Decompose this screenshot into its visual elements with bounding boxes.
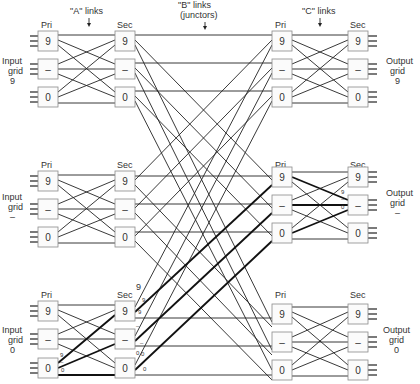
- svg-text:0: 0: [136, 350, 140, 356]
- svg-text:9: 9: [279, 36, 285, 47]
- b-links-header: "B" links (junctors): [178, 0, 218, 30]
- svg-text:–: –: [122, 64, 128, 75]
- svg-text:9: 9: [60, 352, 64, 358]
- svg-text:–: –: [45, 64, 51, 75]
- svg-text:Output: Output: [386, 188, 414, 198]
- svg-text:Pri: Pri: [275, 290, 286, 300]
- svg-text:(junctors): (junctors): [180, 10, 218, 20]
- svg-text:9: 9: [355, 309, 361, 320]
- svg-text:–: –: [122, 204, 128, 215]
- svg-text:–: –: [45, 204, 51, 215]
- input-grid-0-pri: 9 – 0: [38, 301, 58, 378]
- svg-text:9: 9: [122, 176, 128, 187]
- input-grid-dash-pri: 9 – 0: [38, 171, 58, 247]
- svg-text:0: 0: [355, 92, 361, 103]
- svg-text:–: –: [279, 337, 285, 348]
- svg-text:9: 9: [279, 309, 285, 320]
- svg-text:–: –: [395, 208, 400, 218]
- svg-text:9: 9: [279, 172, 285, 183]
- svg-text:Input: Input: [2, 325, 23, 335]
- svg-text:0: 0: [141, 351, 145, 357]
- svg-text:0: 0: [122, 92, 128, 103]
- svg-text:"C" links: "C" links: [302, 6, 336, 16]
- svg-text:Sec: Sec: [350, 290, 366, 300]
- svg-text:0: 0: [10, 345, 15, 355]
- svg-text:Output: Output: [386, 56, 414, 66]
- a-links: [58, 35, 115, 375]
- input-grid-dash-sec: 9 – 0: [115, 171, 135, 247]
- svg-text:9: 9: [122, 36, 128, 47]
- svg-text:0: 0: [143, 366, 147, 372]
- svg-text:Sec: Sec: [117, 290, 133, 300]
- output-grid-0-pri: 9 – 0: [272, 304, 292, 380]
- link-annotations: 9 – 0 9 9 9 – – 0 0 0 9 – 0: [60, 189, 345, 373]
- svg-text:Sec: Sec: [350, 20, 366, 30]
- svg-text:–: –: [60, 359, 64, 365]
- output-grid-dash-pri: 9 – 0: [272, 167, 292, 243]
- switching-network-diagram: "A" links "B" links (junctors) "C" links…: [0, 0, 420, 384]
- output-grid-labels: Output grid 9 Output grid – Output grid …: [383, 56, 414, 355]
- input-grid-9-sec: 9 – 0: [115, 31, 135, 107]
- svg-text:Sec: Sec: [117, 160, 133, 170]
- output-grid-9-sec: 9 – 0: [348, 31, 368, 107]
- svg-text:9: 9: [45, 306, 51, 317]
- svg-text:0: 0: [122, 232, 128, 243]
- svg-text:–: –: [140, 340, 144, 346]
- svg-text:0: 0: [279, 228, 285, 239]
- output-grid-9-pri: 9 – 0: [272, 31, 292, 107]
- input-grid-9-pri: 9 – 0: [38, 31, 58, 107]
- output-grid-0-sec: 9 – 0: [348, 304, 368, 380]
- svg-text:9: 9: [355, 172, 361, 183]
- svg-text:–: –: [10, 212, 15, 222]
- svg-text:grid: grid: [8, 202, 23, 212]
- svg-text:0: 0: [61, 367, 65, 373]
- svg-text:Input: Input: [2, 192, 23, 202]
- svg-text:Pri: Pri: [41, 20, 52, 30]
- c-links-header: "C" links: [302, 6, 336, 27]
- svg-text:0: 0: [279, 92, 285, 103]
- svg-text:–: –: [355, 64, 361, 75]
- svg-text:0: 0: [45, 232, 51, 243]
- output-terminals: [368, 36, 377, 375]
- svg-text:0: 0: [45, 92, 51, 103]
- svg-text:9: 9: [122, 306, 128, 317]
- svg-text:9: 9: [45, 36, 51, 47]
- svg-text:grid: grid: [8, 335, 23, 345]
- svg-text:Pri: Pri: [41, 290, 52, 300]
- svg-text:Pri: Pri: [275, 20, 286, 30]
- c-links: [292, 35, 348, 376]
- svg-text:9: 9: [395, 76, 400, 86]
- svg-text:–: –: [279, 200, 285, 211]
- svg-text:Input: Input: [2, 56, 23, 66]
- svg-text:0: 0: [279, 365, 285, 376]
- svg-text:9: 9: [341, 189, 345, 195]
- column-labels: Pri Sec Pri Sec Pri Sec Pri Sec Pri Sec …: [41, 20, 366, 300]
- svg-text:9: 9: [136, 282, 141, 292]
- input-grid-labels: Input grid 9 Input grid – Input grid 0: [2, 56, 23, 355]
- svg-text:9: 9: [138, 309, 142, 315]
- svg-text:Output: Output: [383, 325, 411, 335]
- svg-text:"B" links: "B" links: [178, 0, 211, 10]
- svg-text:grid: grid: [8, 66, 23, 76]
- svg-text:grid: grid: [390, 66, 405, 76]
- svg-text:0: 0: [355, 228, 361, 239]
- svg-text:0: 0: [394, 345, 399, 355]
- svg-text:Sec: Sec: [117, 20, 133, 30]
- a-links-header: "A" links: [70, 6, 103, 27]
- svg-text:–: –: [279, 64, 285, 75]
- svg-text:9: 9: [45, 176, 51, 187]
- input-terminals: [30, 36, 38, 373]
- svg-text:0: 0: [122, 363, 128, 374]
- svg-text:–: –: [122, 334, 128, 345]
- svg-text:Pri: Pri: [41, 160, 52, 170]
- b-links-junctors: [135, 35, 272, 380]
- svg-text:0: 0: [45, 363, 51, 374]
- svg-text:–: –: [45, 334, 51, 345]
- svg-text:0: 0: [355, 365, 361, 376]
- svg-text:9: 9: [10, 76, 15, 86]
- svg-text:9: 9: [355, 36, 361, 47]
- svg-text:–: –: [355, 337, 361, 348]
- svg-text:"A" links: "A" links: [70, 6, 103, 16]
- svg-text:grid: grid: [389, 335, 404, 345]
- svg-text:grid: grid: [390, 198, 405, 208]
